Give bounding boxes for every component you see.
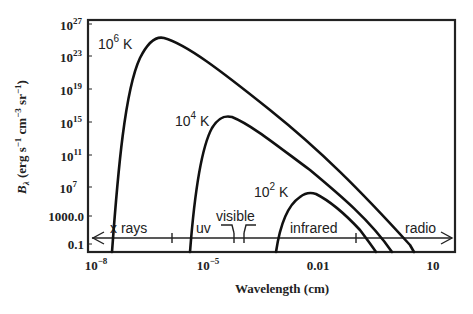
y-tick-label: 0.1 (68, 237, 84, 252)
curve-label-1e6K: 106 K (98, 33, 133, 52)
y-tick-label: 1023 (60, 48, 83, 65)
band-label-visible: visible (216, 208, 255, 224)
curve-1e6K (112, 38, 414, 252)
curve-label-1e2K: 102 K (254, 181, 289, 200)
curve-label-1e4K: 104 K (175, 110, 210, 129)
x-tick-labels: 10−8 10−5 0.01 10 (85, 256, 440, 273)
band-label-infrared: infrared (290, 220, 337, 236)
band-label-uv: uv (196, 220, 211, 236)
band-label-xrays: x rays (110, 220, 147, 236)
x-tick-label: 0.01 (307, 258, 330, 273)
y-tick-label: 1015 (60, 114, 83, 131)
y-tick-label: 107 (60, 179, 78, 196)
x-tick-label: 10−8 (85, 256, 108, 273)
y-axis-title: Bλ (erg s−1 cm−3 sr−1) (13, 80, 31, 195)
y-tick-label: 1019 (60, 81, 83, 98)
x-tick-label: 10 (427, 258, 440, 273)
band-label-radio: radio (405, 220, 436, 236)
y-tick-label: 1027 (60, 16, 83, 33)
x-axis-title: Wavelength (cm) (235, 281, 329, 296)
y-tick-labels: 1027 1023 1019 1015 1011 107 1000.0 0.1 (48, 16, 84, 252)
y-tick-label: 1000.0 (48, 209, 84, 224)
blackbody-chart: 1027 1023 1019 1015 1011 107 1000.0 0.1 … (0, 0, 473, 314)
y-tick-label: 1011 (60, 147, 82, 164)
x-tick-label: 10−5 (197, 256, 220, 273)
